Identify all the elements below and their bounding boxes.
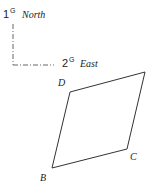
vertex-label-d: D: [57, 77, 66, 88]
vertex-label-b: B: [40, 172, 46, 183]
north-axis-label: North: [21, 9, 45, 20]
diagram-canvas: 1 G North 2 G East D C B: [0, 0, 153, 188]
vertex-label-c: C: [130, 151, 137, 162]
east-axis-superscript: G: [69, 56, 74, 63]
east-axis-label: East: [79, 58, 98, 69]
east-axis-number: 2: [62, 57, 68, 69]
north-axis-superscript: G: [10, 7, 15, 14]
north-axis-number: 1: [3, 8, 9, 20]
